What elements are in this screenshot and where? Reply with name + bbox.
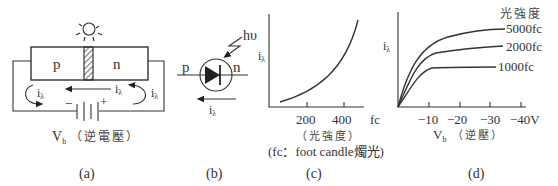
tick-neg20: −20	[447, 112, 467, 127]
tick-400: 400	[332, 112, 352, 127]
panel-a: p n − + iλ iλ iλ Vb （逆電壓） (a)	[13, 23, 164, 182]
current-label-b: iλ	[209, 103, 216, 118]
battery-minus: −	[65, 96, 73, 111]
tick-neg10: −10	[418, 112, 438, 127]
n-label-b: n	[233, 59, 241, 75]
xlabel-d: Vb	[433, 127, 446, 144]
p-label-b: p	[182, 59, 190, 75]
curve-1000fc	[398, 67, 496, 107]
battery-plus: +	[100, 94, 107, 109]
current-label-middle: iλ	[115, 82, 122, 97]
legend-1000fc: 1000fc	[498, 59, 534, 74]
light-source-icon	[76, 23, 102, 41]
vb-desc: （逆電壓）	[70, 129, 140, 144]
vb-label: Vb	[52, 129, 66, 146]
current-loop-right	[131, 85, 146, 104]
n-label: n	[113, 56, 121, 72]
current-label-left: iλ	[37, 86, 44, 101]
ylabel-d: iλ	[383, 39, 390, 54]
note-c: (fc：foot candle燭光)	[268, 144, 384, 159]
curve-2000fc	[398, 46, 503, 107]
panel-d: iλ 光強度 5000fc 2000fc 1000fc −10 −20 −30 …	[383, 6, 542, 182]
depletion-region-hatch	[84, 47, 93, 80]
legend-title: 光強度	[500, 6, 542, 21]
panel-b: hυ p n iλ (b)	[177, 28, 257, 182]
lightning-arrow-icon	[226, 37, 242, 56]
battery-icon	[77, 102, 98, 121]
current-label-right: iλ	[151, 86, 158, 101]
photon-label: hυ	[243, 28, 257, 43]
caption-a: (a)	[79, 166, 95, 182]
xlabel-d-desc: （逆壓）	[452, 128, 504, 142]
tick-200: 200	[296, 112, 316, 127]
axes-c	[269, 14, 364, 107]
tick-neg40: −40V	[510, 112, 540, 127]
caption-c: (c)	[306, 166, 322, 182]
caption-d: (d)	[468, 166, 485, 182]
curve-c	[280, 20, 358, 102]
ylabel-c: iλ	[258, 49, 265, 64]
xlabel-c: （光強度）	[296, 129, 361, 143]
legend-2000fc: 2000fc	[506, 39, 542, 54]
panel-c: iλ 200 400 fc （光強度） (fc：foot candle燭光) (…	[258, 14, 384, 182]
p-label: p	[53, 56, 61, 72]
xunit-c: fc	[370, 112, 380, 127]
legend-5000fc: 5000fc	[506, 21, 542, 36]
tick-neg30: −30	[480, 112, 500, 127]
caption-b: (b)	[206, 166, 223, 182]
